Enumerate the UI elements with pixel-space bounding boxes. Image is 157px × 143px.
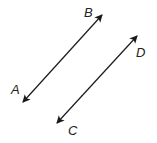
line-cd: C D bbox=[57, 36, 145, 138]
label-b: B bbox=[84, 5, 93, 20]
line-cd-segment bbox=[57, 36, 137, 123]
line-ab: A B bbox=[10, 5, 102, 102]
parallel-lines-diagram: A B C D bbox=[0, 0, 157, 143]
label-d: D bbox=[136, 45, 145, 60]
line-ab-segment bbox=[23, 15, 102, 102]
label-c: C bbox=[68, 123, 78, 138]
label-a: A bbox=[10, 82, 20, 97]
